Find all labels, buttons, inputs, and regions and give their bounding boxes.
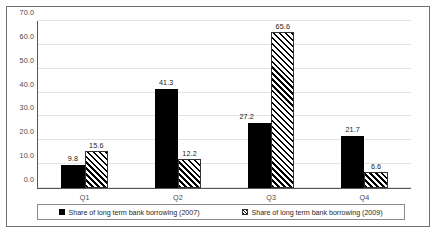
legend-swatch-icon: [242, 209, 248, 215]
y-axis-tick-label: 70.0: [20, 8, 34, 17]
x-axis-category-label: Q4: [360, 193, 370, 202]
bar-value-label: 6.6: [371, 162, 381, 171]
y-axis-tick-label: 20.0: [20, 127, 34, 136]
bar-q1-series2[interactable]: 15.6: [85, 151, 108, 188]
y-axis-tick-label: 50.0: [20, 55, 34, 64]
bar-q2-series2[interactable]: 12.2: [178, 159, 201, 188]
y-axis-tick-label: 60.0: [20, 31, 34, 40]
bar-value-label: 9.8: [68, 154, 78, 163]
bar-group: 27.265.6Q3: [248, 21, 295, 188]
legend-label: Share of long term bank borrowing (2009): [251, 208, 382, 217]
legend-entry-2[interactable]: Share of long term bank borrowing (2009): [242, 208, 382, 217]
chart-frame: 0.010.020.030.040.050.060.070.0 9.815.6Q…: [6, 6, 430, 227]
legend-label: Share of long term bank borrowing (2007): [68, 208, 199, 217]
bar-group: 41.312.2Q2: [155, 21, 202, 188]
bar-q1-series1[interactable]: 9.8: [61, 165, 84, 188]
y-axis-tick-label: 30.0: [20, 103, 34, 112]
bar-value-label: 12.2: [182, 149, 196, 158]
bar-q4-series2[interactable]: 6.6: [364, 172, 387, 188]
bar-value-label: 21.7: [346, 125, 360, 134]
y-axis-tick-label: 40.0: [20, 79, 34, 88]
bar-q3-series1[interactable]: 27.2: [248, 123, 271, 188]
bar-q3-series2[interactable]: 65.6: [271, 32, 294, 189]
x-axis-category-label: Q2: [173, 193, 183, 202]
x-axis-category-label: Q3: [266, 193, 276, 202]
x-axis-category-label: Q1: [80, 193, 90, 202]
bar-q4-series1[interactable]: 21.7: [341, 136, 364, 188]
bar-value-label: 65.6: [276, 22, 290, 31]
chart-legend: Share of long term bank borrowing (2007)…: [37, 204, 405, 220]
bar-value-label: 27.2: [239, 112, 253, 121]
bar-group: 9.815.6Q1: [61, 21, 108, 188]
bar-value-label: 41.3: [159, 78, 173, 87]
legend-entry-1[interactable]: Share of long term bank borrowing (2007): [59, 208, 199, 217]
bar-group: 21.76.6Q4: [341, 21, 388, 188]
plot-area: 0.010.020.030.040.050.060.070.0 9.815.6Q…: [37, 21, 411, 189]
bar-value-label: 15.6: [89, 141, 103, 150]
legend-swatch-icon: [59, 209, 65, 215]
bar-q2-series1[interactable]: 41.3: [155, 89, 178, 188]
y-axis-tick-label: 10.0: [20, 151, 34, 160]
y-axis-tick-label: 0.0: [24, 175, 34, 184]
